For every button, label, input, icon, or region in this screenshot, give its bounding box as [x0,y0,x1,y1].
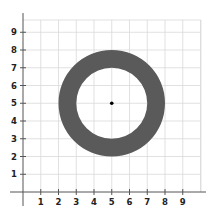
y-tick-label: 2 [11,152,17,162]
y-tick-label: 4 [11,116,17,126]
y-tick-label: 3 [11,134,17,144]
x-tick-label: 9 [180,197,186,207]
axes [10,13,206,206]
x-tick-label: 2 [56,197,62,207]
y-tick-label: 8 [11,45,17,55]
x-tick-label: 4 [91,197,97,207]
y-tick-label: 7 [11,63,17,73]
x-tick-label: 5 [109,197,115,207]
x-tick-label: 6 [127,197,133,207]
chart: 123456789 123456789 [0,0,211,215]
y-axis-ticks: 123456789 [11,27,26,179]
grid [23,20,201,192]
center-point [110,101,114,105]
y-tick-label: 5 [11,98,17,108]
y-tick-label: 9 [11,27,17,37]
y-tick-label: 1 [11,169,17,179]
x-tick-label: 3 [73,197,79,207]
x-tick-label: 8 [162,197,168,207]
x-tick-label: 7 [144,197,150,207]
points [110,101,114,105]
x-tick-label: 1 [38,197,44,207]
y-tick-label: 6 [11,81,17,91]
